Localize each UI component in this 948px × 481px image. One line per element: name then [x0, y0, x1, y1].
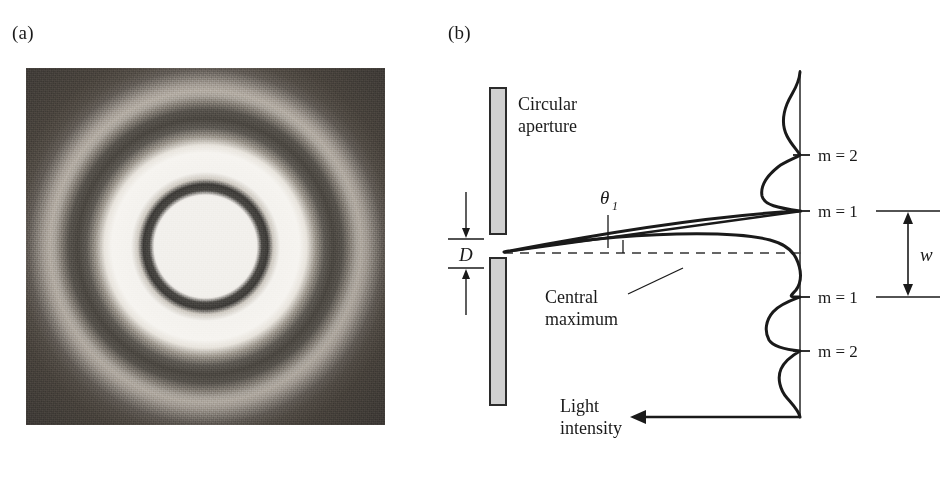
light-intensity-arrow-head: [630, 410, 646, 424]
central-max-width-label: w: [920, 244, 933, 265]
theta-label: θ: [600, 187, 609, 208]
aperture-label-line2: aperture: [518, 116, 577, 136]
central-maximum-label-line1: Central: [545, 287, 598, 307]
photo-vignette: [26, 68, 385, 425]
figure-circular-aperture-diffraction: (a) (b) Circular aperture D: [0, 0, 948, 481]
minimum-label-lower-m1: m = 1: [818, 288, 858, 307]
w-arrow-head-up: [903, 212, 913, 224]
light-intensity-label-line2: intensity: [560, 418, 622, 438]
light-intensity-label-line1: Light: [560, 396, 599, 416]
aperture-screen-lower: [490, 258, 506, 405]
minimum-label-upper-m1: m = 1: [818, 202, 858, 221]
airy-pattern-photograph: [26, 68, 385, 425]
w-arrow-head-down: [903, 284, 913, 296]
minimum-label-lower-m2: m = 2: [818, 342, 858, 361]
theta-subscript: 1: [612, 199, 618, 213]
minimum-label-upper-m2: m = 2: [818, 146, 858, 165]
aperture-diameter-label: D: [458, 244, 473, 265]
panel-a-label: (a): [12, 22, 34, 44]
diffraction-schematic-diagram: Circular aperture D θ 1 Central maximum: [440, 0, 948, 481]
aperture-label-line1: Circular: [518, 94, 577, 114]
d-arrow-upper-head: [462, 228, 470, 238]
central-maximum-leader-line: [628, 268, 683, 294]
central-maximum-label-line2: maximum: [545, 309, 618, 329]
aperture-screen-upper: [490, 88, 506, 234]
